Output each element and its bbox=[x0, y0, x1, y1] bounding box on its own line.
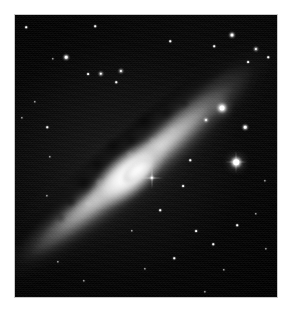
galaxy bbox=[15, 15, 277, 297]
figure-page bbox=[0, 0, 289, 316]
galaxy-grain bbox=[15, 15, 277, 297]
plate-inner bbox=[15, 15, 277, 297]
astronomical-image-plate bbox=[15, 15, 277, 297]
